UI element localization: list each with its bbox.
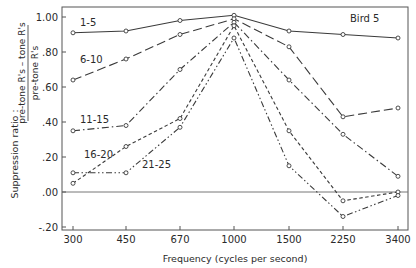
y-tick-label: .60 xyxy=(42,82,58,93)
series-16-20 xyxy=(71,24,400,203)
data-point-marker xyxy=(124,171,128,175)
data-point-marker xyxy=(124,57,128,61)
data-point-marker xyxy=(71,78,75,82)
data-point-marker xyxy=(71,129,75,133)
y-tick-label: 1.00 xyxy=(36,12,58,23)
data-point-marker xyxy=(124,124,128,128)
x-axis-title: Frequency (cycles per second) xyxy=(163,253,308,264)
data-point-marker xyxy=(71,171,75,175)
data-point-marker xyxy=(341,199,345,203)
y-tick-label: .20 xyxy=(42,152,58,163)
x-axis: 3004506701000150022503400 xyxy=(63,226,410,245)
data-point-marker xyxy=(178,68,182,72)
series-line xyxy=(73,26,398,201)
y-axis-fraction: pre-tone R's – tone R's pre-tone R's xyxy=(17,22,40,124)
data-point-marker xyxy=(178,19,182,23)
data-point-marker xyxy=(287,78,291,82)
y-axis-numerator: pre-tone R's – tone R's xyxy=(17,22,27,124)
data-point-marker xyxy=(232,24,236,28)
series-11-15 xyxy=(71,20,400,178)
y-tick-label: .40 xyxy=(42,117,58,128)
series-label-21-25: 21-25 xyxy=(142,159,171,170)
series-label-1-5: 1-5 xyxy=(80,17,96,28)
x-tick-label: 1000 xyxy=(221,234,246,245)
suppression-ratio-chart: 1.00.80.60.40.20.00-.20 3004506701000150… xyxy=(0,0,416,268)
data-point-marker xyxy=(396,194,400,198)
data-point-marker xyxy=(396,174,400,178)
series-label-6-10: 6-10 xyxy=(80,54,103,65)
data-point-marker xyxy=(341,33,345,37)
data-point-marker xyxy=(178,33,182,37)
series-6-10 xyxy=(71,17,400,119)
series-label-16-20: 16-20 xyxy=(84,149,113,160)
x-tick-label: 2250 xyxy=(330,234,355,245)
data-point-marker xyxy=(341,215,345,219)
series-line xyxy=(73,19,398,117)
series-line xyxy=(73,38,398,217)
y-axis: 1.00.80.60.40.20.00-.20 xyxy=(36,12,66,233)
data-point-marker xyxy=(341,132,345,136)
data-point-marker xyxy=(287,29,291,33)
x-tick-label: 450 xyxy=(116,234,135,245)
data-point-marker xyxy=(71,31,75,35)
y-tick-label: -.20 xyxy=(38,222,58,233)
x-tick-label: 670 xyxy=(170,234,189,245)
data-point-marker xyxy=(396,36,400,40)
data-point-marker xyxy=(124,145,128,149)
x-tick-label: 3400 xyxy=(385,234,410,245)
data-point-marker xyxy=(396,106,400,110)
y-axis-denominator: pre-tone R's xyxy=(30,45,40,100)
data-point-marker xyxy=(287,45,291,49)
x-tick-label: 300 xyxy=(63,234,82,245)
bird-annotation: Bird 5 xyxy=(350,13,379,24)
data-point-marker xyxy=(178,125,182,129)
data-point-marker xyxy=(341,115,345,119)
data-point-marker xyxy=(287,164,291,168)
x-tick-label: 1500 xyxy=(276,234,301,245)
y-tick-label: .80 xyxy=(42,47,58,58)
data-point-marker xyxy=(71,181,75,185)
data-point-marker xyxy=(178,117,182,121)
data-point-marker xyxy=(124,29,128,33)
y-tick-label: .00 xyxy=(42,187,58,198)
series-label-11-15: 11-15 xyxy=(80,114,109,125)
series-line xyxy=(73,22,398,176)
plot-frame xyxy=(62,7,408,230)
data-point-marker xyxy=(287,129,291,133)
data-point-marker xyxy=(232,36,236,40)
series-21-25 xyxy=(71,36,400,219)
series-layer xyxy=(71,13,400,218)
